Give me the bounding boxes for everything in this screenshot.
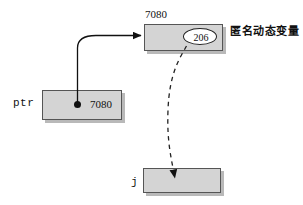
pointer-value-label: 7080 <box>90 99 112 110</box>
heap-value-text: 206 <box>184 29 218 46</box>
heap-address-label: 7080 <box>145 9 167 20</box>
pointer-box-shadow-right <box>122 93 125 123</box>
pointer-variable-name-label: ptr <box>13 98 34 109</box>
anonymous-dynamic-variable-annotation: 匿名动态变量 <box>230 26 299 37</box>
heap-box-shadow-right <box>223 27 226 54</box>
pointer-box-shadow-bottom <box>45 120 125 123</box>
pointer-value-dot <box>74 101 81 108</box>
target-variable-box <box>143 168 221 193</box>
heap-value-to-j-arrow <box>168 46 187 176</box>
diagram-canvas: 206 7080 匿名动态变量 ptr 7080 j <box>0 0 303 205</box>
target-box-shadow-bottom <box>146 193 224 196</box>
target-box-shadow-right <box>221 171 224 196</box>
heap-value-oval: 206 <box>183 28 217 45</box>
heap-box-shadow-bottom <box>147 51 226 54</box>
target-variable-name-label: j <box>131 177 138 188</box>
